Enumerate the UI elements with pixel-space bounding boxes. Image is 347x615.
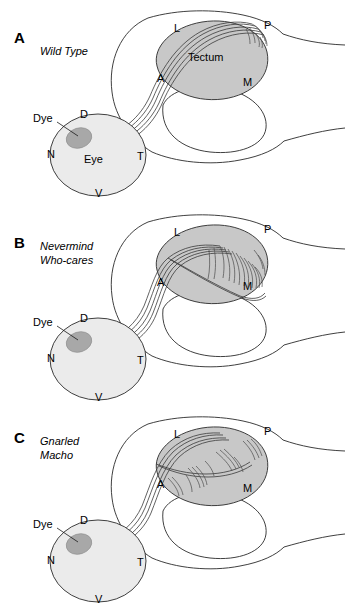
panel-a-genotype-line1: Wild Type (40, 45, 88, 57)
panel-c-axis-anterior: A (157, 478, 165, 490)
panel-a-body-contour-upper (283, 34, 345, 45)
panel-a-tectum-label: Tectum (188, 51, 223, 63)
panel-a-axis-lateral: L (174, 22, 180, 34)
panel-c-axis-ventral: V (95, 593, 103, 605)
panel-c-head-outline-bottom (152, 547, 284, 569)
panel-a: A Wild Type (14, 11, 345, 199)
panel-a-axis-dorsal: D (80, 108, 88, 120)
panel-b-axis-medial: M (243, 280, 252, 292)
panel-c-genotype-line2: Macho (40, 449, 73, 461)
panel-c-genotype-line1: Gnarled (40, 435, 80, 447)
panel-c: C Gnarled Macho (14, 417, 345, 605)
panel-b-axis-dorsal: D (80, 312, 88, 324)
panel-b-eye-shape (50, 318, 146, 400)
panel-a-dye-label: Dye (33, 112, 53, 124)
retinotectal-projection-figure: A Wild Type (0, 0, 347, 615)
panel-b-axis-temporal: T (137, 354, 144, 366)
panel-b-axis-nasal: N (47, 352, 55, 364)
panel-c-eye-shape (50, 520, 146, 602)
panel-a-axis-medial: M (243, 76, 252, 88)
panel-c-axis-posterior: P (264, 425, 271, 437)
panel-b-body-contour-lower (284, 332, 345, 345)
panel-c-dye-label: Dye (33, 518, 53, 530)
panel-a-axis-posterior: P (264, 19, 271, 31)
panel-c-axis-nasal: N (47, 554, 55, 566)
panel-c-axis-dorsal: D (80, 514, 88, 526)
panel-a-eye-label: Eye (84, 153, 103, 165)
panel-b-dye-label: Dye (33, 316, 53, 328)
panel-a-axis-ventral: V (95, 187, 103, 199)
panel-b: B Nevermind Who-cares (14, 215, 345, 403)
panel-a-axis-temporal: T (137, 150, 144, 162)
panel-c-axis-lateral: L (174, 428, 180, 440)
panel-b-body-contour-upper (283, 238, 345, 249)
panel-a-letter: A (14, 29, 25, 46)
panel-c-body-contour-upper (283, 440, 345, 451)
panel-a-head-outline-bottom (152, 141, 284, 163)
panel-b-genotype-line2: Who-cares (40, 254, 94, 266)
panel-b-axis-lateral: L (174, 226, 180, 238)
panel-a-axis-nasal: N (47, 148, 55, 160)
panel-c-body-contour-lower (284, 534, 345, 547)
panel-a-axis-anterior: A (157, 72, 165, 84)
panel-b-axis-ventral: V (95, 391, 103, 403)
panel-b-axis-posterior: P (264, 223, 271, 235)
panel-c-axis-medial: M (243, 482, 252, 494)
panel-b-letter: B (14, 234, 25, 251)
panel-a-body-contour-lower (284, 128, 345, 141)
panel-c-axis-temporal: T (137, 556, 144, 568)
panel-c-letter: C (14, 429, 25, 446)
panel-b-axis-anterior: A (157, 276, 165, 288)
panel-b-genotype-line1: Nevermind (40, 240, 94, 252)
panel-b-head-outline-bottom (152, 345, 284, 367)
